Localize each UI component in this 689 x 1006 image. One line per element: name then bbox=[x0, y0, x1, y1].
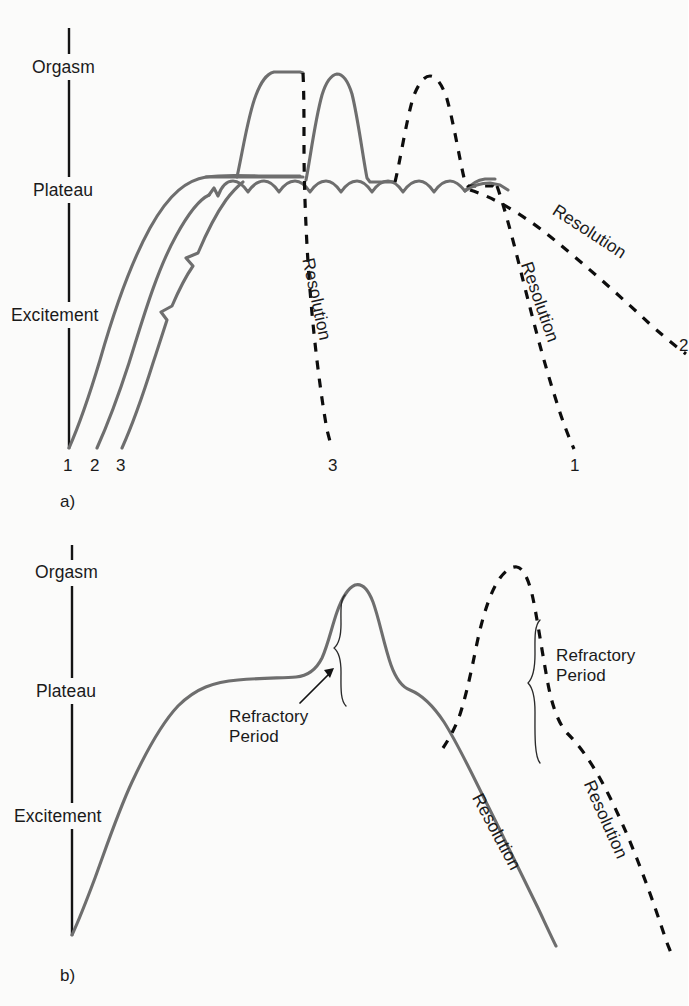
panel-b-graphics bbox=[72, 545, 671, 953]
panel-a-curve-2-solid bbox=[69, 175, 300, 448]
panel-a-tick-1: 1 bbox=[63, 456, 73, 476]
panel-a-end-label-3: 3 bbox=[328, 456, 338, 476]
panel-a-tick-2: 2 bbox=[90, 456, 100, 476]
panel-a-level-plateau: Plateau bbox=[33, 180, 93, 200]
panel-b-curve-solid bbox=[72, 585, 556, 946]
panel-a-curve-1-wavy-plateau bbox=[209, 179, 495, 196]
panel-a-curve-1-rise bbox=[97, 195, 209, 448]
panel-b-level-plateau: Plateau bbox=[36, 681, 96, 701]
panel-a-end-label-1: 1 bbox=[570, 456, 580, 476]
panel-b-curve-dashed bbox=[443, 567, 671, 953]
panel-b-level-excitement: Excitement bbox=[14, 806, 102, 826]
panel-a-label: a) bbox=[60, 492, 75, 512]
panel-b-refractory-label-right: Refractory Period bbox=[556, 646, 635, 686]
panel-a-curve-2-orgasm bbox=[237, 72, 303, 177]
panel-b-refractory-label-left: Refractory Period bbox=[229, 707, 308, 747]
panel-b-refractory-arrow-line bbox=[300, 673, 330, 703]
panel-a-tick-3: 3 bbox=[116, 456, 126, 476]
panel-a-level-excitement: Excitement bbox=[11, 305, 99, 325]
panel-a-curve-3-orgasm-spike bbox=[306, 74, 393, 182]
panel-b-level-orgasm: Orgasm bbox=[35, 562, 98, 582]
panel-a-level-orgasm: Orgasm bbox=[32, 57, 95, 77]
panel-a-end-label-2: 2 bbox=[679, 336, 689, 356]
panel-a-dashed-second-orgasm bbox=[395, 76, 495, 186]
panel-b-label: b) bbox=[60, 966, 75, 986]
panel-b-refractory-brace-right bbox=[528, 620, 540, 763]
